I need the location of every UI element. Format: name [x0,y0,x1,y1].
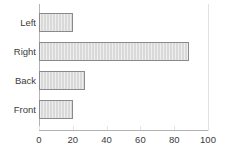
bar-left [39,13,73,32]
category-label-1-wrap: Right [0,42,36,61]
x-tick-label: 100 [193,134,223,145]
bar-back [39,71,85,90]
x-tick-mark [73,126,74,130]
bar-front [39,100,73,119]
plot-frame-right [208,4,209,131]
x-tick-label: 0 [24,134,54,145]
x-axis-line [39,130,209,131]
category-label-back: Back [0,71,36,90]
x-tick-label: 60 [125,134,155,145]
category-label-2-wrap: Back [0,71,36,90]
x-tick-mark [208,126,209,130]
x-tick-label: 40 [92,134,122,145]
x-tick-label: 80 [159,134,189,145]
x-tick-label: 20 [58,134,88,145]
x-tick-mark [39,126,40,130]
bar-right [39,42,189,61]
category-label-left: Left [0,13,36,32]
category-label-3-wrap: Front [0,100,36,119]
category-label-0-wrap: Left [0,13,36,32]
x-tick-mark [140,126,141,130]
category-label-front: Front [0,100,36,119]
bar-chart: Left Right Back Front 020406080100 [0,0,230,152]
x-tick-mark [107,126,108,130]
category-label-right: Right [0,42,36,61]
x-tick-mark [174,126,175,130]
